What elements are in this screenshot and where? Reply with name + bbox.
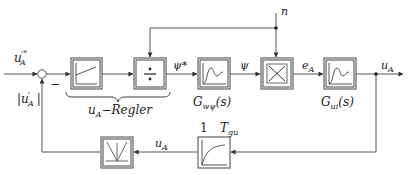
n-label: n xyxy=(281,6,288,17)
controller-brace xyxy=(66,92,170,102)
e-A-sub: A xyxy=(309,65,315,74)
pt1-gain-label: 1 xyxy=(200,122,208,134)
n-to-divider-line xyxy=(150,28,276,57)
e-A-main: e xyxy=(302,59,309,72)
setpoint-sub: A xyxy=(20,58,26,67)
gwpsi-main: G xyxy=(193,95,203,109)
abs-main: |u xyxy=(17,92,29,106)
abs-sub: A xyxy=(28,99,34,108)
feedback-u-A-label: uA xyxy=(155,138,168,149)
gui-sub: ui xyxy=(331,102,339,111)
g-w-psi-label: Gwψ(s) xyxy=(193,96,231,108)
abs-close: | xyxy=(37,92,41,106)
input-setpoint-label: u'*A xyxy=(14,52,34,64)
psi-label: ψ xyxy=(240,60,249,71)
multiplier-block xyxy=(261,58,293,89)
g-ui-label: Gui(s) xyxy=(321,96,354,108)
minus-sign: − xyxy=(50,78,60,90)
pt1-filter-block xyxy=(198,137,230,168)
g-ui-block xyxy=(324,58,356,89)
output-u-A-label: uA xyxy=(381,60,394,71)
tgu-sub: gu xyxy=(228,128,238,137)
pt1-time-constant-label: Tgu xyxy=(220,122,238,134)
gwpsi-tail: (s) xyxy=(216,95,232,109)
n-branch-dot xyxy=(274,26,278,30)
gui-tail: (s) xyxy=(338,95,354,109)
rectifier-block xyxy=(101,137,133,168)
psi-star-label: ψ* xyxy=(173,60,187,71)
gui-main: G xyxy=(321,95,331,109)
divider-block xyxy=(134,58,166,89)
tgu-main: T xyxy=(220,121,228,135)
u-A-fb-sub: A xyxy=(162,143,168,152)
g-w-psi-block xyxy=(198,58,230,89)
abs-sup: ' xyxy=(28,90,30,99)
gwpsi-sub: wψ xyxy=(203,102,216,111)
output-branch-dot xyxy=(374,72,378,76)
e-A-label: eA xyxy=(302,60,314,71)
summing-junction xyxy=(38,70,46,78)
brace-main: u xyxy=(88,103,96,117)
setpoint-sup: '* xyxy=(21,49,27,58)
feedback-abs-label: |u'A| xyxy=(17,93,41,105)
control-loop-diagram xyxy=(0,0,409,175)
controller-brace-label: uA−Regler xyxy=(88,104,152,116)
controller-block xyxy=(71,58,102,89)
u-A-out-sub: A xyxy=(388,65,394,74)
brace-sub: A xyxy=(96,110,102,119)
brace-tail: −Regler xyxy=(102,103,153,117)
